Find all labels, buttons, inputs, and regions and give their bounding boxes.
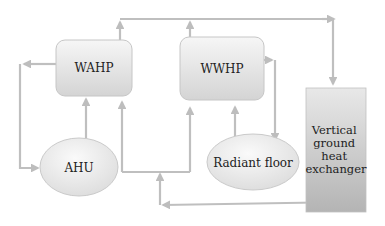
wahp-label: WAHP (75, 61, 114, 75)
node-wwhp: WWHP (180, 37, 264, 100)
wwhp-label: WWHP (200, 62, 243, 76)
radiant-floor-label: Radiant floor (213, 156, 293, 170)
ahu-label: AHU (63, 161, 93, 175)
system-diagram: WAHP WWHP AHU Radiant floor Vertical gro… (0, 0, 385, 226)
node-radiant-floor: Radiant floor (207, 134, 299, 190)
ghe-label: Vertical ground heat exchanger (305, 123, 367, 176)
node-wahp: WAHP (56, 40, 132, 96)
node-ahu: AHU (40, 138, 118, 196)
node-ground-heat-exchanger: Vertical ground heat exchanger (305, 88, 367, 212)
left-loop (20, 64, 38, 168)
